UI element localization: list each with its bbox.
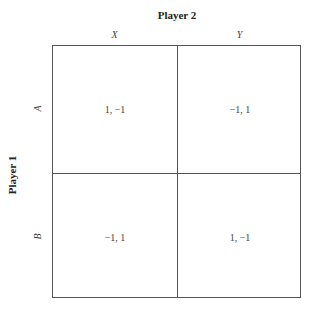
column-label-y: Y: [177, 29, 302, 40]
cell-a-x: 1, −1: [53, 46, 177, 173]
row-label-a-text: A: [31, 105, 42, 111]
player-1-title: Player 1: [0, 140, 24, 210]
row-label-a: A: [30, 98, 44, 118]
cell-b-x: −1, 1: [53, 174, 177, 301]
player-1-title-text: Player 1: [6, 156, 18, 195]
cell-a-y: −1, 1: [178, 46, 302, 173]
cell-b-y: 1, −1: [178, 174, 302, 301]
payoff-matrix: 1, −1 −1, 1 −1, 1 1, −1: [52, 45, 301, 298]
column-label-x: X: [52, 29, 177, 40]
row-label-b: B: [30, 226, 44, 246]
row-label-b-text: B: [31, 233, 42, 239]
player-2-title: Player 2: [52, 9, 302, 21]
